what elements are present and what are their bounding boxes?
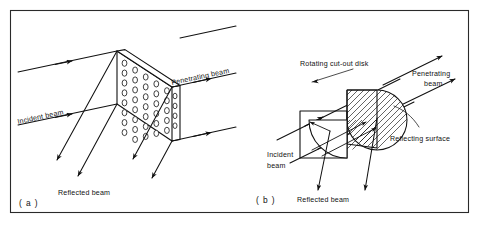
slab-hole [122,100,127,106]
slab-hole [154,81,159,87]
panel-a-incident-beam-label: Incident beam [17,108,65,126]
slab-hole-side [173,103,177,109]
slab-hole [165,127,170,133]
panel-b-rotating-disk-label: Rotating cut-out disk [300,60,369,68]
slab-hole [122,110,127,116]
slab-hole [143,104,148,110]
panel-b-group: Rotating cut-out disk Penetrating beam R… [256,40,455,205]
panel-b-reflected-beam-label: Reflected beam [297,196,349,204]
panel-a-caption: ( a ) [19,198,38,208]
slab-hole [154,130,159,136]
slab-hole [133,67,138,73]
slab-hole [122,60,127,66]
slab-hole [165,108,170,114]
reflected-beam-ray-2 [78,104,117,176]
slab-hole [133,126,138,132]
slab-hole [143,74,148,80]
figure-canvas: Incident beam Penetrating beam Reflected… [0,0,481,232]
rotating-disk-leader-arrow [312,79,319,83]
slab-hole [133,136,138,142]
slab-hole-side [173,113,177,119]
slab-hole [122,120,127,126]
slab-hole [154,101,159,107]
slab-hole [143,114,148,120]
panel-b-penetrating-beam-label-line2: beam [424,80,442,88]
slab-hole [122,90,127,96]
panel-b-rotating-disk [300,40,438,166]
penetrating-beam-ray-upper [180,26,236,38]
slab-hole [122,80,127,86]
panel-a-slab [117,50,180,143]
slab-hole [154,91,159,97]
slab-hole [122,70,127,76]
slab-hole [165,117,170,123]
slab-hole [154,120,159,126]
slab-hole [133,117,138,123]
slab-hole [143,123,148,129]
slab-hole [133,97,138,103]
panel-a-reflected-beam-label: Reflected beam [58,189,110,197]
slab-hole [133,107,138,113]
penetrating-beam-arrow-lower [193,133,211,137]
figure-container: Incident beam Penetrating beam Reflected… [0,0,481,232]
slab-hole [133,87,138,93]
slab-hole [133,77,138,83]
rotating-disk-leader [312,69,353,82]
slab-hole [143,94,148,100]
slab-hole [143,84,148,90]
panel-b-reflecting-surface-label: Reflecting surface [390,135,450,143]
slab-hole-side [173,93,177,99]
panel-b-penetrating-beam-label-line1: Penetrating [412,70,450,78]
incident-beam-arrow-upper [55,61,72,65]
panel-b-caption: ( b ) [256,195,275,205]
panel-b-incident-beam-label-line1: Incident [267,151,293,159]
panel-a-penetrating-beam-label: Penetrating beam [171,67,230,87]
panel-b-incident-beam-label-line2: beam [267,162,285,170]
slab-hole-side [173,123,177,129]
panel-a-group: Incident beam Penetrating beam Reflected… [17,26,236,208]
reflected-beam-ray-4 [152,141,172,178]
slab-hole [122,129,127,135]
